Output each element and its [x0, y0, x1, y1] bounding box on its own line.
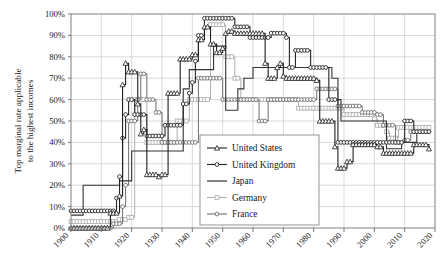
data-point-marker [142, 113, 146, 117]
data-point-marker [281, 31, 285, 35]
data-point-marker [266, 36, 270, 40]
data-point-marker [324, 66, 328, 70]
legend-label: France [232, 209, 258, 219]
data-point-marker [121, 205, 125, 209]
chart-container: 0%10%20%30%40%50%60%70%80%90%100% 190019… [0, 0, 445, 275]
data-point-marker [193, 141, 197, 145]
data-point-marker [409, 119, 413, 123]
data-point-marker [333, 87, 337, 91]
data-point-marker [372, 117, 376, 121]
data-point-marker [184, 102, 188, 106]
data-point-marker [230, 55, 234, 59]
data-point-marker [254, 98, 258, 102]
y-tick-label: 100% [45, 9, 65, 19]
data-point-marker [118, 222, 122, 226]
data-point-marker [160, 134, 164, 138]
data-point-marker [151, 98, 155, 102]
y-tick-label: 10% [49, 202, 65, 212]
legend-label: United States [232, 143, 283, 153]
y-tick-label: 90% [49, 30, 65, 40]
legend-label: Germany [232, 193, 267, 203]
data-point-marker [215, 163, 219, 167]
data-point-marker [142, 72, 146, 76]
data-point-marker [157, 111, 161, 115]
data-point-marker [263, 119, 267, 123]
data-point-marker [215, 212, 219, 216]
y-axis-title-line2: to the highest incomes [25, 79, 35, 162]
y-tick-label: 60% [49, 95, 65, 105]
data-point-marker [306, 48, 310, 52]
data-point-marker [190, 81, 194, 85]
data-point-marker [236, 76, 240, 80]
data-point-marker [187, 91, 191, 95]
data-point-marker [184, 119, 188, 123]
data-point-marker [130, 215, 134, 219]
data-point-marker [206, 98, 210, 102]
data-point-marker [218, 76, 222, 80]
tax-rate-line-chart: 0%10%20%30%40%50%60%70%80%90%100% 190019… [0, 0, 445, 275]
y-axis-title-line1: Top marginal rate applicable [13, 68, 23, 173]
data-point-marker [130, 98, 134, 102]
y-tick-label: 50% [49, 116, 65, 126]
data-point-marker [333, 98, 337, 102]
data-point-marker [312, 98, 316, 102]
y-tick-label: 30% [49, 159, 65, 169]
y-tick-label: 80% [49, 52, 65, 62]
data-point-marker [230, 16, 234, 20]
y-tick-label: 70% [49, 73, 65, 83]
data-point-marker [178, 123, 182, 127]
data-point-marker [406, 138, 410, 142]
legend-label: Japan [232, 176, 254, 186]
data-point-marker [379, 113, 383, 117]
y-tick-label: 40% [49, 137, 65, 147]
data-point-marker [133, 119, 137, 123]
data-point-marker [193, 59, 197, 63]
data-point-marker [118, 175, 122, 179]
data-point-marker [357, 104, 361, 108]
data-point-marker [124, 113, 128, 117]
y-tick-label: 20% [49, 180, 65, 190]
data-point-marker [400, 141, 404, 145]
data-point-marker [221, 23, 225, 27]
data-point-marker [391, 123, 395, 127]
data-point-marker [284, 36, 288, 40]
data-point-marker [427, 126, 431, 130]
data-point-marker [245, 25, 249, 29]
data-point-marker [215, 196, 219, 200]
legend-label: United Kingdom [232, 160, 296, 170]
data-point-marker [291, 66, 295, 70]
chart-legend[interactable]: United StatesUnited KingdomJapanGermanyF… [200, 135, 319, 225]
data-point-marker [124, 183, 128, 187]
data-point-marker [427, 130, 431, 134]
